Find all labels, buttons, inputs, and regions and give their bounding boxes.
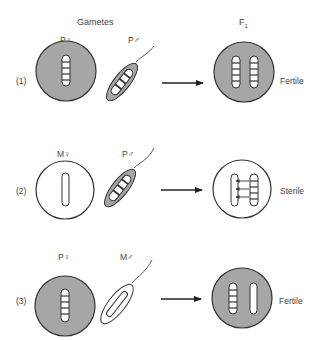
cross-3: [35, 260, 272, 336]
cross-1-p-sperm: [102, 46, 154, 105]
cross-3-m-sperm: [96, 260, 152, 328]
chromosome-with-p-elements: [62, 55, 70, 86]
cross-3-f1-zygote: [212, 268, 272, 328]
sperm-tail: [134, 148, 154, 168]
sperm-tail: [136, 46, 154, 62]
cross-1: [36, 41, 274, 105]
cross-2: [36, 148, 271, 219]
cross-2-f1-zygote: [213, 160, 271, 218]
hybrid-dysgenesis-diagram: [0, 0, 327, 340]
cross-2-p-sperm: [100, 148, 154, 211]
cross-2-m-egg: [36, 161, 94, 219]
cross-1-f1-zygote: [214, 42, 274, 102]
cross-1-p-egg: [36, 41, 96, 101]
sperm-tail: [132, 260, 152, 283]
cross-3-p-egg: [35, 276, 95, 336]
